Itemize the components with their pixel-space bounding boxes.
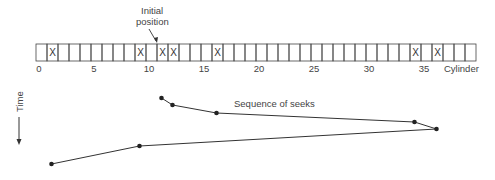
time-axis: Time bbox=[14, 91, 25, 145]
cylinder-strip: XXXXXXX bbox=[36, 44, 476, 61]
cylinder-cell bbox=[124, 44, 135, 61]
tick-label: 0 bbox=[36, 63, 41, 74]
cylinder-cell bbox=[234, 44, 245, 61]
cylinder-cell bbox=[355, 44, 366, 61]
request-mark: X bbox=[412, 47, 419, 58]
cylinder-cell bbox=[91, 44, 102, 61]
cylinder-cell bbox=[344, 44, 355, 61]
cylinder-cell bbox=[223, 44, 234, 61]
tick-label: 30 bbox=[364, 63, 375, 74]
request-mark: X bbox=[159, 47, 166, 58]
cylinder-cell bbox=[201, 44, 212, 61]
seek-point bbox=[434, 127, 439, 132]
initial-position-label-line1: Initial bbox=[141, 5, 163, 16]
initial-position-label-line2: position bbox=[136, 16, 169, 27]
cylinder-cell bbox=[58, 44, 69, 61]
request-mark: X bbox=[214, 47, 221, 58]
cylinder-cell bbox=[245, 44, 256, 61]
seek-point bbox=[49, 162, 54, 167]
cylinder-cell bbox=[465, 44, 476, 61]
request-mark: X bbox=[137, 47, 144, 58]
cylinder-tick-labels: 05101520253035 bbox=[36, 63, 429, 74]
cylinder-cell bbox=[322, 44, 333, 61]
cylinder-cell bbox=[267, 44, 278, 61]
cylinder-cell bbox=[377, 44, 388, 61]
cylinder-cell bbox=[333, 44, 344, 61]
sequence-of-seeks-label: Sequence of seeks bbox=[234, 98, 315, 109]
disk-seek-diagram: XXXXXXX 05101520253035 Cylinder Initial … bbox=[0, 0, 495, 180]
cylinder-cell bbox=[190, 44, 201, 61]
cylinder-cell bbox=[454, 44, 465, 61]
cylinder-cell bbox=[366, 44, 377, 61]
tick-label: 35 bbox=[419, 63, 430, 74]
time-arrow-head bbox=[17, 139, 22, 145]
cylinder-cell bbox=[278, 44, 289, 61]
cylinder-cell bbox=[146, 44, 157, 61]
initial-position-arrow bbox=[149, 29, 158, 43]
time-label: Time bbox=[14, 91, 25, 112]
cylinder-cell bbox=[311, 44, 322, 61]
cylinder-cell bbox=[69, 44, 80, 61]
arrow-head bbox=[154, 37, 158, 43]
cylinder-cell bbox=[289, 44, 300, 61]
tick-label: 20 bbox=[254, 63, 265, 74]
cylinder-cell bbox=[300, 44, 311, 61]
request-mark: X bbox=[49, 47, 56, 58]
seek-point bbox=[137, 144, 142, 149]
cylinder-cell bbox=[256, 44, 267, 61]
seek-point bbox=[214, 111, 219, 116]
cylinder-cell bbox=[113, 44, 124, 61]
cylinder-cell bbox=[443, 44, 454, 61]
tick-label: 25 bbox=[309, 63, 320, 74]
cylinder-cell bbox=[388, 44, 399, 61]
cylinder-axis-label: Cylinder bbox=[444, 63, 479, 74]
cylinder-cell bbox=[421, 44, 432, 61]
request-mark: X bbox=[434, 47, 441, 58]
cylinder-cell bbox=[36, 44, 47, 61]
cylinder-cell bbox=[80, 44, 91, 61]
tick-label: 10 bbox=[144, 63, 155, 74]
cylinder-cell bbox=[179, 44, 190, 61]
seek-point bbox=[412, 120, 417, 125]
cylinder-cell bbox=[399, 44, 410, 61]
request-mark: X bbox=[170, 47, 177, 58]
seek-point bbox=[159, 96, 164, 101]
tick-label: 15 bbox=[199, 63, 210, 74]
tick-label: 5 bbox=[91, 63, 96, 74]
seek-point bbox=[170, 103, 175, 108]
cylinder-cell bbox=[102, 44, 113, 61]
